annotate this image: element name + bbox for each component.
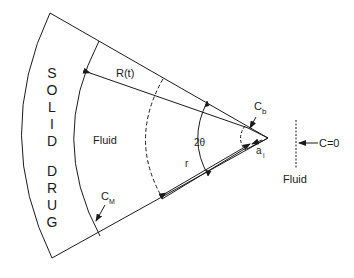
diagram-canvas: S O L I D D R U G R(t) Fluid 2θ r C b a …: [0, 0, 354, 278]
fluid-inner-label: Fluid: [93, 134, 117, 146]
c-m-label: C M: [101, 190, 115, 205]
channel-lower-wall: [162, 148, 246, 199]
svg-text:L: L: [48, 99, 56, 115]
c-b-arrow: [250, 117, 256, 128]
svg-text:D: D: [47, 163, 57, 179]
angle-label: 2θ: [194, 137, 206, 148]
r-arrow: [166, 144, 250, 193]
sector-lower-edge: [52, 138, 268, 258]
svg-text:D: D: [47, 133, 57, 149]
svg-text:M: M: [109, 198, 115, 205]
c-zero-label: C=0: [319, 137, 340, 149]
inner-radius-dashed-arc: [241, 126, 246, 150]
c-m-arrow: [96, 205, 105, 221]
r-label: r: [185, 158, 189, 169]
c-b-label: C b: [254, 100, 267, 116]
svg-text:O: O: [47, 82, 58, 98]
fluid-outer-label: Fluid: [283, 173, 307, 185]
svg-text:G: G: [47, 214, 58, 230]
sector-upper-edge: [50, 13, 268, 138]
svg-text:b: b: [262, 107, 267, 116]
svg-text:C: C: [101, 190, 109, 202]
svg-text:U: U: [47, 197, 57, 213]
svg-text:i: i: [263, 152, 265, 159]
r-t-label: R(t): [116, 67, 134, 79]
svg-text:I: I: [50, 116, 54, 132]
svg-text:R: R: [47, 180, 57, 196]
svg-text:a: a: [256, 145, 262, 156]
a-i-label: a i: [256, 145, 265, 159]
svg-text:C: C: [254, 100, 262, 112]
solid-drug-label: S O L I D D R U G: [47, 65, 58, 230]
svg-text:S: S: [47, 65, 56, 81]
